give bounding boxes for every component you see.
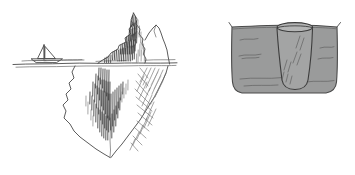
- tub-right-lip: [337, 23, 341, 28]
- hatching-crosshatch: [130, 68, 166, 151]
- iceberg-secondary-peak: [145, 25, 170, 64]
- glass-rim: [277, 23, 313, 32]
- iceberg-panel: [13, 13, 177, 158]
- iceberg-submerged: [63, 66, 168, 158]
- hatching-tip-light: [136, 20, 144, 62]
- glass-panel: [229, 23, 341, 94]
- hatching-vertical: [90, 68, 123, 140]
- tub-left-lip: [229, 23, 232, 28]
- sailboat: [22, 45, 82, 63]
- sketch-svg: [0, 0, 355, 175]
- sketch-canvas: Iceberg and submerged glass sketch: [0, 0, 355, 175]
